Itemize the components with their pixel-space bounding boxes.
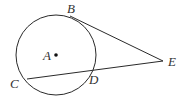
- label-E: E: [167, 54, 176, 69]
- geometry-diagram: A B C D E: [0, 0, 182, 99]
- center-point-A: [54, 53, 58, 57]
- label-A: A: [42, 48, 51, 63]
- label-B: B: [67, 1, 75, 16]
- label-D: D: [88, 72, 99, 87]
- label-C: C: [10, 76, 19, 91]
- tangent-segment-BE: [70, 16, 163, 61]
